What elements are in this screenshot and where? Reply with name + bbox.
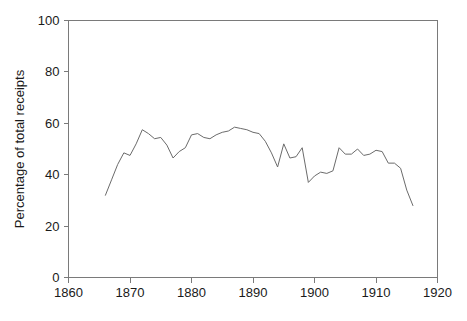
x-tick-label-1920: 1920 <box>423 285 452 300</box>
y-tick-label-20: 20 <box>45 219 59 234</box>
x-axis-ticks <box>69 278 438 283</box>
x-tick-label-1870: 1870 <box>116 285 145 300</box>
plot-frame <box>69 21 438 278</box>
x-tick-label-1860: 1860 <box>54 285 83 300</box>
axis-group <box>69 21 438 278</box>
x-tick-label-1890: 1890 <box>239 285 268 300</box>
x-axis-tick-labels: 1860187018801890190019101920 <box>54 285 452 300</box>
y-tick-label-80: 80 <box>45 64 59 79</box>
chart-figure: 020406080100 186018701880189019001910192… <box>0 0 467 321</box>
line-chart-canvas: 020406080100 186018701880189019001910192… <box>0 0 467 321</box>
y-tick-label-60: 60 <box>45 116 59 131</box>
x-tick-label-1880: 1880 <box>177 285 206 300</box>
y-tick-label-100: 100 <box>38 13 60 28</box>
y-axis-ticks <box>64 21 69 278</box>
y-tick-label-0: 0 <box>52 270 59 285</box>
x-tick-label-1900: 1900 <box>300 285 329 300</box>
y-axis-title: Percentage of total receipts <box>12 69 27 228</box>
x-tick-label-1910: 1910 <box>362 285 391 300</box>
y-tick-label-40: 40 <box>45 167 59 182</box>
series-group <box>105 127 413 205</box>
y-axis-tick-labels: 020406080100 <box>38 13 60 285</box>
data-line-percentage-of-total-receipts <box>105 127 413 205</box>
